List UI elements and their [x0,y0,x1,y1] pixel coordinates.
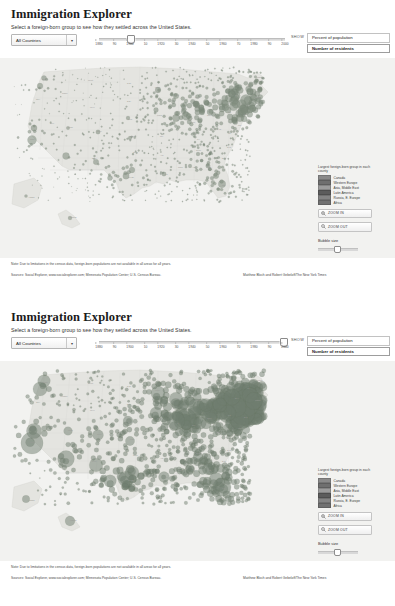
zoom-out-button[interactable]: ZOOM OUT [318,525,372,535]
svg-text:N.M.: N.M. [92,157,97,159]
svg-text:Idaho: Idaho [62,92,68,94]
country-select[interactable]: All Countries ▾ [11,34,77,46]
zoom-in-button[interactable]: ZOOM IN [318,512,372,522]
timeline-tick-label: 1900 [126,42,133,46]
zoom-in-button[interactable]: ZOOM IN [318,209,372,219]
timeline-tick-label: 30 [175,345,179,349]
data-note: Note: Due to limitations in the census d… [11,262,311,266]
show-number-of-residents-button[interactable]: Number of residents [307,347,390,357]
svg-text:N.C.: N.C. [227,449,232,451]
svg-text:Ark.: Ark. [160,457,164,459]
timeline-tick-label: 1940 [188,345,195,349]
svg-text:Va.: Va. [228,435,232,437]
bubble-size-handle[interactable] [334,549,341,557]
svg-text:Ariz.: Ariz. [66,459,71,461]
timeline-tick-mark [175,342,176,344]
svg-text:Ala.: Ala. [192,469,196,471]
svg-text:Minn.: Minn. [155,389,161,391]
bubble-size-handle[interactable] [334,246,341,254]
controls-bar: All Countries ▾ 188090190010192030194050… [0,34,395,58]
timeline-tick-label: 10 [144,42,148,46]
svg-text:Pa.: Pa. [228,111,232,113]
bubble-size-slider[interactable] [318,245,358,251]
svg-text:S.C.: S.C. [222,157,227,159]
svg-text:Maine: Maine [257,379,264,381]
svg-text:Okla.: Okla. [133,454,138,456]
svg-text:N.J.: N.J. [244,416,248,418]
svg-text:Mont.: Mont. [88,79,94,81]
timeline-tick-label: 50 [206,345,210,349]
legend-item[interactable]: Africa [318,200,386,204]
svg-text:N.D.: N.D. [127,385,132,387]
svg-text:Mich.: Mich. [195,399,201,401]
timeline-tick-label: 1960 [219,42,226,46]
timeline-tick-label: 1980 [250,345,257,349]
timeline-tick-label: 90 [113,345,117,349]
country-select[interactable]: All Countries ▾ [11,337,77,349]
show-percent-of-population-button[interactable]: Percent of population [307,336,390,346]
legend-item[interactable]: Africa [318,503,386,507]
svg-text:Vt.: Vt. [247,84,250,86]
svg-text:Tenn.: Tenn. [196,452,202,454]
timeline-tick-mark [188,342,189,344]
svg-text:Idaho: Idaho [62,395,68,397]
credit-line: Matthew Bloch and Robert Gebeloff/The Ne… [243,576,326,580]
svg-text:Calif.: Calif. [30,441,35,443]
legend-item-label: Russia, E. Europe [334,499,361,503]
timeline-tick-mark [237,342,238,344]
sources-line: Sources: Social Explorer, www.socialexpl… [11,576,201,581]
svg-text:Ga.: Ga. [208,166,212,168]
timeline-tick-mark [175,39,176,41]
svg-text:Minn.: Minn. [155,86,161,88]
timeline-tick-label: 30 [175,42,179,46]
svg-text:N.Y.: N.Y. [235,94,239,96]
svg-text:Wyo.: Wyo. [90,409,95,411]
show-number-of-residents-button[interactable]: Number of residents [307,44,390,54]
year-timeline-slider[interactable]: 1880901900101920301940501960701980902000 [99,337,285,355]
svg-text:Neb.: Neb. [128,421,133,423]
svg-text:N.C.: N.C. [227,146,232,148]
svg-text:N.D.: N.D. [127,82,132,84]
timeline-tick-label: 2000 [281,42,288,46]
show-percent-of-population-button[interactable]: Percent of population [307,33,390,43]
svg-text:Vt.: Vt. [247,387,250,389]
svg-text:S.D.: S.D. [127,100,132,102]
timeline-tick-label: 1960 [219,345,226,349]
bubble-size-slider[interactable] [318,548,358,554]
svg-text:Ga.: Ga. [208,469,212,471]
timeline-tick-label: 70 [237,42,241,46]
legend-item-label: Asia, Middle East [334,186,359,190]
timeline-tick-mark [281,342,282,344]
page-title: Immigration Explorer [11,7,132,22]
timeline-tick-mark [268,342,269,344]
timeline-tick-mark [250,39,251,41]
timeline-tick-mark [126,342,127,344]
svg-text:Mich.: Mich. [195,96,201,98]
timeline-tick-label: 90 [268,345,272,349]
magnifier-minus-icon [319,224,328,229]
svg-text:Hawaii: Hawaii [70,519,77,521]
timeline-tick-label: 90 [113,42,117,46]
timeline-tick-label: 50 [206,42,210,46]
legend-title: Largest foreign-born group in each count… [318,468,372,477]
zoom-out-button[interactable]: ZOOM OUT [318,222,372,232]
timeline-ticks: 1880901900101920301940501960701980902000 [99,345,285,353]
us-map[interactable]: Wash.Ore.Calif.Nev.IdahoMont.Wyo.UtahAri… [0,58,395,258]
year-timeline-slider[interactable]: 1880901900101920301940501960701980902000 [99,34,285,52]
legend-item-label: Africa [334,201,342,205]
bubble-size-label: Bubble size [318,238,386,243]
svg-text:N.M.: N.M. [92,460,97,462]
svg-text:Wis.: Wis. [175,94,180,96]
country-select-value: All Countries [12,38,66,43]
data-note: Note: Due to limitations in the census d… [11,565,311,569]
svg-text:Colo.: Colo. [97,433,102,435]
svg-text:Texas: Texas [128,479,135,481]
svg-text:Mo.: Mo. [160,438,164,440]
show-toggle-group: SHOW Percent of population Number of res… [291,336,391,360]
svg-text:Ky.: Ky. [197,441,200,443]
us-map[interactable]: Wash.Ore.Calif.Nev.IdahoMont.Wyo.UtahAri… [0,361,395,561]
svg-text:N.Y.: N.Y. [235,397,239,399]
timeline-tick-label: 2000 [281,345,288,349]
credit-line: Matthew Bloch and Robert Gebeloff/The Ne… [243,273,326,277]
svg-text:Calif.: Calif. [30,138,35,140]
